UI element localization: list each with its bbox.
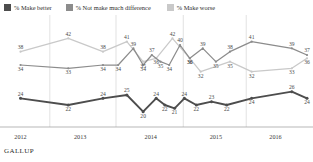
data-point: [291, 47, 293, 49]
data-point-label: 38: [227, 44, 233, 50]
data-point-label: 25: [124, 87, 130, 93]
legend-label-no-difference: % Not make much difference: [76, 4, 151, 11]
legend-label-make-better: % Make better: [14, 4, 52, 11]
data-point: [210, 100, 213, 103]
x-axis-tick-2014: 2014: [145, 133, 157, 140]
data-point-label: 34: [115, 66, 121, 72]
data-point-label: 39: [131, 41, 137, 47]
data-point-label: 36: [153, 59, 159, 65]
legend-swatch-make-better: [4, 4, 11, 11]
chart-plot-area: 2422242520242221242223222426243433343439…: [0, 15, 313, 133]
data-point-label: 22: [162, 106, 168, 112]
data-point-label: 39: [200, 41, 206, 47]
chart-legend: % Make better % Not make much difference…: [0, 0, 313, 15]
data-point: [102, 51, 104, 53]
data-point-label: 22: [224, 106, 230, 112]
data-point-label: 40: [177, 37, 183, 43]
data-point-label: 35: [227, 63, 233, 69]
data-point-label: 38: [100, 44, 106, 50]
data-point-label: 33: [289, 69, 295, 75]
data-point: [183, 97, 186, 100]
data-point-label: 21: [172, 109, 178, 115]
data-point-label: 32: [249, 73, 255, 79]
x-axis-tick-2013: 2013: [74, 133, 86, 140]
data-point: [19, 51, 21, 53]
data-point-label: 36: [187, 59, 193, 65]
gallup-brand-footer: GALLUP: [4, 147, 34, 155]
data-point-label: 35: [140, 63, 146, 69]
data-point: [290, 90, 293, 93]
data-point-label: 41: [249, 34, 255, 40]
x-axis-tick-2016: 2016: [269, 133, 281, 140]
data-point: [306, 54, 308, 56]
data-point: [179, 44, 181, 46]
data-point-label: 33: [65, 69, 71, 75]
data-point-label: 37: [304, 47, 310, 53]
data-point-label: 24: [153, 91, 159, 97]
data-point-label: 41: [124, 34, 130, 40]
data-point-label: 24: [249, 99, 255, 105]
data-point-label: 24: [182, 91, 188, 97]
legend-item-make-worse: % Make worse: [167, 4, 215, 11]
data-point: [19, 97, 22, 100]
data-point-label: 26: [289, 84, 295, 90]
data-point-label: 24: [304, 99, 310, 105]
data-point-label: 34: [100, 66, 106, 72]
data-point-label: 42: [170, 31, 176, 37]
data-point-label: 23: [209, 94, 215, 100]
data-point-label: 35: [213, 63, 219, 69]
data-point-label: 32: [198, 73, 204, 79]
data-point: [132, 47, 134, 49]
data-point-label: 38: [18, 44, 24, 50]
x-axis-tick-2012: 2012: [14, 133, 26, 140]
data-point: [151, 54, 153, 56]
data-point: [171, 37, 173, 39]
data-point: [202, 47, 204, 49]
data-point: [125, 94, 128, 97]
data-point: [155, 97, 158, 100]
data-point: [251, 41, 253, 43]
data-point-label: 36: [304, 59, 310, 65]
data-point: [67, 37, 69, 39]
data-point-label: 37: [149, 47, 155, 53]
data-point: [101, 97, 104, 100]
legend-label-make-worse: % Make worse: [177, 4, 215, 11]
legend-swatch-make-worse: [167, 4, 174, 11]
data-point-label: 42: [65, 31, 71, 37]
data-point-label: 20: [140, 113, 146, 119]
x-axis-tick-labels: 20122013201420152016: [0, 133, 313, 145]
legend-item-make-better: % Make better: [4, 4, 52, 11]
line-chart-svg: 2422242520242221242223222426243433343439…: [0, 15, 313, 133]
data-point-label: 39: [289, 41, 295, 47]
legend-swatch-no-difference: [66, 4, 73, 11]
data-point: [229, 51, 231, 53]
data-point-label: 22: [194, 106, 200, 112]
series-not-make-much-difference: [19, 41, 308, 70]
data-point-label: 34: [18, 66, 24, 72]
data-point-label: 34: [166, 66, 172, 72]
x-axis-tick-2015: 2015: [210, 133, 222, 140]
data-point: [126, 41, 128, 43]
series-line-path: [21, 42, 307, 69]
data-point-label: 22: [65, 106, 71, 112]
data-point-label: 24: [18, 91, 24, 97]
legend-item-no-difference: % Not make much difference: [66, 4, 151, 11]
data-point-label: 24: [100, 91, 106, 97]
